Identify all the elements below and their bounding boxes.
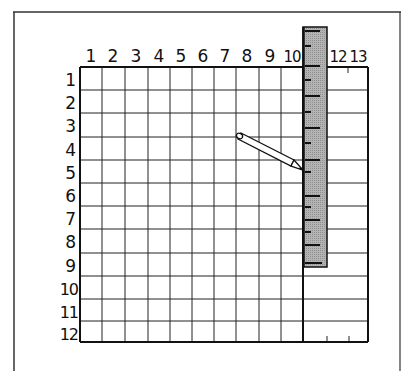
col-label: 8	[242, 46, 253, 66]
grid-ruler-diagram: 1 2 3 4 5 6 7 8 9 10 12 13 1 2 3 4 5 6 7…	[0, 0, 404, 371]
row-label: 6	[65, 186, 76, 206]
row-label: 10	[60, 280, 79, 299]
row-labels: 1 2 3 4 5 6 7 8 9 10 11 12	[60, 70, 79, 344]
col-label: 9	[265, 46, 276, 66]
col-label: 1	[86, 46, 97, 66]
row-label: 11	[60, 303, 78, 322]
col-label: 5	[176, 46, 187, 66]
row-label: 2	[65, 93, 76, 113]
col-label: 7	[220, 46, 231, 66]
row-label: 8	[65, 232, 76, 252]
col-label: 4	[154, 46, 165, 66]
pencil-icon	[235, 132, 303, 170]
row-label: 12	[60, 325, 78, 344]
row-label: 9	[65, 256, 76, 276]
col-label: 10	[283, 48, 301, 66]
row-label: 4	[65, 140, 76, 160]
row-label: 3	[65, 116, 76, 136]
row-label: 7	[65, 209, 76, 229]
col-label: 13	[349, 48, 367, 66]
col-label: 12	[329, 48, 347, 66]
ruler	[303, 27, 327, 267]
col-label: 2	[108, 46, 119, 66]
col-label: 6	[198, 46, 209, 66]
col-label: 3	[131, 46, 142, 66]
row-label: 1	[65, 70, 76, 90]
row-label: 5	[65, 163, 76, 183]
